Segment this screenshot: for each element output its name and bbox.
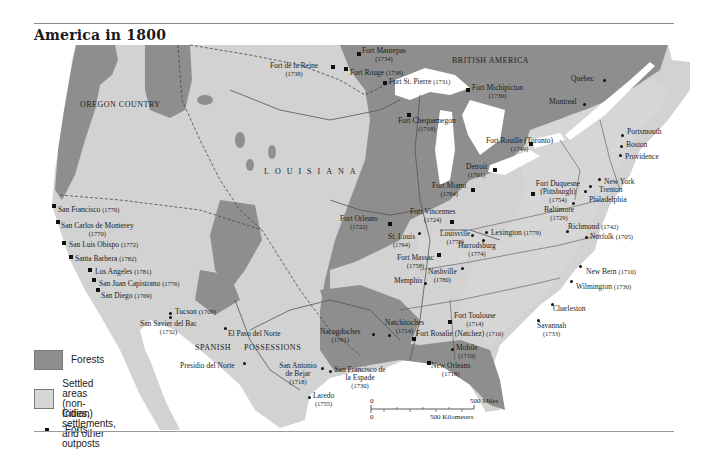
- fort-marker: [62, 241, 66, 245]
- place-label: Memphis: [394, 277, 422, 285]
- place-label: Fort Duquesne (Pittsburgh)(1754): [528, 180, 588, 204]
- place-label: Quebec: [571, 75, 594, 83]
- place-label: Fort de la Reine(1738): [270, 62, 318, 78]
- fort-marker: [471, 188, 475, 192]
- city-marker: [570, 280, 573, 283]
- place-label: Presidio del Norte: [180, 362, 235, 370]
- place-label: Fort Maurepas(1734): [362, 47, 406, 63]
- place-label: Wilmington (1730): [576, 283, 631, 291]
- fort-marker: [69, 255, 73, 259]
- city-marker: [451, 348, 454, 351]
- region-oregon-country: OREGON COUNTRY: [80, 100, 161, 109]
- place-label: El Paso del Norte: [228, 330, 281, 338]
- fort-marker: [388, 222, 392, 226]
- fort-marker: [92, 278, 96, 282]
- region-possessions: POSSESSIONS: [244, 343, 301, 352]
- city-marker: [619, 154, 622, 157]
- city-marker: [424, 282, 427, 285]
- city-marker: [308, 396, 311, 399]
- city-marker: [589, 185, 592, 188]
- legend-forts: Forts: [34, 425, 88, 435]
- city-marker: [485, 231, 488, 234]
- place-label: Mobile(1710): [456, 344, 478, 360]
- settled-swatch: [34, 389, 54, 409]
- place-label: Nacogdoches(1791): [320, 328, 360, 344]
- fort-marker: [437, 253, 441, 257]
- place-label: San Carlos de Monterey(1770): [61, 222, 134, 238]
- place-label: San Luis Obispo (1772): [69, 241, 138, 249]
- place-label: San Diego (1769): [101, 292, 152, 300]
- forest-patch: [268, 145, 276, 159]
- place-label: Fort Rouille (Toronto)(1749): [486, 137, 553, 153]
- place-label: Fort Michipicton(1730): [472, 84, 523, 100]
- place-label: San Juan Capistrano (1776): [99, 280, 179, 288]
- fort-marker: [331, 65, 335, 69]
- city-marker: [579, 265, 582, 268]
- place-label: Trenton: [599, 186, 622, 194]
- city-marker: [329, 370, 332, 373]
- city-marker: [621, 134, 624, 137]
- place-label: San Antonio de Bejar(1718): [276, 362, 320, 386]
- place-label: San Savier del Bac(1732): [140, 320, 197, 336]
- place-label: Charleston: [553, 305, 586, 313]
- forest-patch: [197, 95, 213, 105]
- fort-marker: [88, 268, 92, 272]
- place-label: Fort Toulouse(1714): [454, 312, 496, 328]
- place-label: Baltimore(1729): [544, 206, 574, 222]
- legend-forests: Forests: [34, 350, 104, 370]
- place-label: Laredo(1755): [313, 392, 334, 408]
- place-label: Fort Miami(1704): [432, 182, 466, 198]
- city-marker: [169, 312, 172, 315]
- place-label: Boston: [626, 141, 647, 149]
- city-marker: [461, 267, 464, 270]
- place-label: Lexington (1779): [491, 229, 541, 237]
- city-marker: [321, 367, 324, 370]
- city-marker: [243, 362, 246, 365]
- forest-patch: [235, 132, 245, 148]
- bottom-rule: [34, 431, 674, 432]
- fort-marker: [493, 168, 497, 172]
- city-marker: [372, 333, 375, 336]
- place-label: Philadelphia: [589, 196, 627, 204]
- place-label: Richmond (1742): [568, 223, 618, 231]
- fort-marker: [357, 52, 361, 56]
- region-spanish: SPANISH: [195, 343, 231, 352]
- place-label: Los Angeles (1781): [95, 268, 152, 276]
- city-marker: [583, 103, 586, 106]
- place-label: Montreal: [549, 98, 577, 106]
- place-label: Fort Chequamegon(1718): [398, 117, 456, 133]
- city-marker: [584, 190, 587, 193]
- place-label: Natchitoches(1714): [385, 319, 424, 335]
- place-label: Fort St. Pierre (1731): [389, 78, 451, 86]
- region-british-america: BRITISH AMERICA: [452, 56, 529, 65]
- place-label: Savannah(1733): [537, 322, 566, 338]
- fort-marker: [344, 67, 348, 71]
- fort-marker: [56, 220, 60, 224]
- fort-marker: [383, 81, 387, 85]
- city-marker: [620, 145, 623, 148]
- place-label: Tucson (1709): [175, 308, 216, 316]
- place-label: Fort Rosalie (Natchez) (1716): [416, 330, 504, 338]
- forest-swatch: [34, 350, 63, 370]
- place-label: Portsmouth: [627, 128, 662, 136]
- place-label: San Francisco de la Espade(1730): [334, 366, 386, 390]
- place-label: New Orleans(1718): [431, 362, 470, 378]
- place-label: St. Louis(1764): [388, 233, 415, 249]
- scale-bar: 0 500 Miles 0 500 Kilometers: [370, 397, 490, 421]
- place-label: Harrodsburg(1774): [458, 242, 496, 258]
- place-label: Norfolk (1705): [590, 233, 633, 241]
- fort-marker: [466, 88, 470, 92]
- city-marker: [585, 236, 588, 239]
- place-label: Fort Rouge (1738): [350, 69, 403, 77]
- city-marker: [598, 178, 601, 181]
- region-louisiana: LOUISIANA: [264, 167, 362, 176]
- city-marker: [471, 234, 474, 237]
- fort-marker: [448, 320, 452, 324]
- city-marker: [603, 79, 606, 82]
- place-label: Detroit(1701): [466, 163, 487, 179]
- fort-marker: [96, 288, 100, 292]
- place-label: Fort Vincennes(1724): [410, 208, 455, 224]
- forest-patch: [246, 159, 254, 171]
- place-label: San Francisco (1776): [58, 206, 120, 214]
- fort-marker: [52, 204, 56, 208]
